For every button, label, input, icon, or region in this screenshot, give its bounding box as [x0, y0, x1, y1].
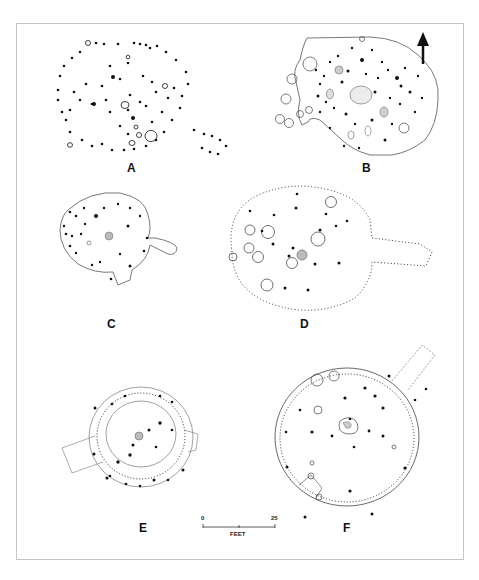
plan-f	[275, 345, 435, 519]
plan-label-e: E	[139, 521, 147, 535]
scale-end: 25	[271, 515, 278, 521]
plan-b	[276, 37, 439, 156]
plan-d	[229, 186, 432, 310]
plan-label-b: B	[362, 161, 371, 175]
plan-label-a: A	[127, 161, 136, 175]
north-arrow-icon	[417, 32, 429, 64]
plan-label-c: C	[107, 317, 116, 331]
plan-label-d: D	[300, 317, 309, 331]
scale-unit: FEET	[230, 531, 245, 537]
scale-start: 0	[201, 515, 204, 521]
plan-label-f: F	[343, 521, 350, 535]
plan-e	[62, 387, 198, 487]
plan-a	[57, 41, 228, 156]
floor-plans-drawing	[0, 0, 479, 580]
plan-c	[60, 193, 177, 285]
scale-bar	[203, 524, 275, 528]
